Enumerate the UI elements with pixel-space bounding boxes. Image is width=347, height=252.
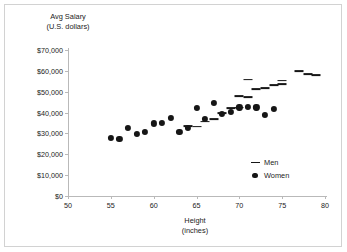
- y-tick-mark: [65, 175, 68, 176]
- data-point-men: [312, 74, 321, 76]
- x-tick-label: 80: [321, 201, 329, 210]
- x-axis-title-line2: (inches): [130, 226, 260, 236]
- y-tick-label: $30,000: [37, 129, 63, 138]
- circle-marker-icon: [249, 173, 261, 179]
- data-point-women: [236, 104, 242, 110]
- y-tick-mark: [65, 133, 68, 134]
- data-point-men: [243, 96, 252, 98]
- data-point-men: [209, 119, 218, 121]
- x-tick-mark: [282, 196, 283, 199]
- y-axis-title: Avg Salary (U.S. dollars): [22, 12, 114, 32]
- y-tick-mark: [65, 50, 68, 51]
- chart-figure: Avg Salary (U.S. dollars) $0$10,000$20,0…: [0, 0, 347, 252]
- chart-legend: Men Women: [249, 156, 289, 182]
- x-tick-label: 50: [64, 201, 72, 210]
- dash-marker-icon: [249, 162, 261, 164]
- x-tick-label: 55: [107, 201, 115, 210]
- data-point-men: [261, 87, 270, 89]
- y-tick-mark: [65, 92, 68, 93]
- legend-item-men: Men: [249, 156, 289, 169]
- data-point-women: [176, 129, 182, 135]
- y-axis-title-line2: (U.S. dollars): [22, 22, 114, 32]
- data-point-women: [133, 131, 139, 137]
- data-point-women: [193, 104, 199, 110]
- x-tick-mark: [68, 196, 69, 199]
- y-tick-mark: [65, 154, 68, 155]
- y-axis-title-line1: Avg Salary: [22, 12, 114, 22]
- data-point-men: [295, 71, 304, 73]
- data-point-women: [168, 115, 174, 121]
- data-point-women: [211, 100, 217, 106]
- y-tick-label: $40,000: [37, 108, 63, 117]
- data-point-women: [108, 135, 114, 141]
- y-tick-mark: [65, 113, 68, 114]
- x-tick-mark: [239, 196, 240, 199]
- x-tick-label: 70: [235, 201, 243, 210]
- legend-label-men: Men: [264, 158, 278, 167]
- data-point-women: [151, 120, 157, 126]
- data-point-women: [125, 124, 131, 130]
- data-point-men: [243, 79, 252, 81]
- y-tick-label: $10,000: [37, 171, 63, 180]
- y-tick-label: $60,000: [37, 66, 63, 75]
- x-tick-mark: [325, 196, 326, 199]
- y-tick-label: $20,000: [37, 150, 63, 159]
- x-axis-title: Height (inches): [130, 216, 260, 236]
- y-tick-label: $0: [55, 192, 63, 201]
- data-point-men: [278, 80, 287, 82]
- data-point-women: [116, 136, 122, 142]
- x-tick-label: 75: [278, 201, 286, 210]
- x-tick-mark: [154, 196, 155, 199]
- data-point-women: [253, 104, 259, 110]
- x-axis-title-line1: Height: [130, 216, 260, 226]
- data-point-women: [159, 120, 165, 126]
- legend-item-women: Women: [249, 169, 289, 182]
- data-point-men: [192, 126, 201, 128]
- data-point-women: [142, 128, 148, 134]
- y-tick-mark: [65, 71, 68, 72]
- x-tick-label: 65: [193, 201, 201, 210]
- x-tick-label: 60: [150, 201, 158, 210]
- data-point-women: [245, 103, 251, 109]
- y-tick-label: $50,000: [37, 87, 63, 96]
- data-point-men: [278, 83, 287, 85]
- data-point-women: [228, 109, 234, 115]
- legend-label-women: Women: [264, 171, 289, 180]
- x-tick-mark: [197, 196, 198, 199]
- data-point-women: [219, 111, 225, 117]
- data-point-women: [262, 112, 268, 118]
- x-tick-mark: [111, 196, 112, 199]
- data-point-women: [185, 124, 191, 130]
- y-tick-label: $70,000: [37, 46, 63, 55]
- data-point-women: [271, 106, 277, 112]
